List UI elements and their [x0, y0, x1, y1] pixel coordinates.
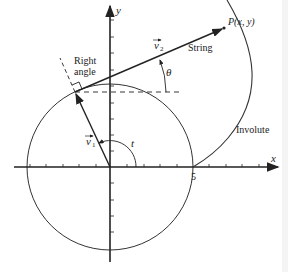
svg-text:2: 2 [160, 45, 164, 53]
x-axis-label: x [270, 152, 276, 164]
involute-diagram: y x 5 P(x, y) v 2 v 1 String θ Right ang… [0, 0, 288, 272]
string-label: String [188, 42, 212, 53]
page-edge [282, 0, 288, 272]
vector-v2-string [75, 29, 222, 92]
right-angle-marker [72, 82, 82, 89]
x-tick-5-label: 5 [191, 171, 196, 182]
theta-label: θ [166, 66, 172, 78]
v1-label: v 1 [85, 135, 96, 149]
involute-label: Involute [236, 124, 270, 135]
y-axis-label: y [115, 4, 121, 16]
t-label: t [131, 137, 135, 149]
svg-text:v: v [86, 135, 91, 147]
svg-text:1: 1 [92, 141, 96, 149]
v2-label: v 2 [153, 39, 164, 53]
point-p-dot [222, 26, 225, 29]
point-p-label: P(x, y) [227, 16, 255, 28]
y-axis [110, 6, 114, 262]
right-angle-label-line1: Right [74, 55, 96, 66]
x-axis [14, 164, 278, 167]
right-angle-label-line2: angle [74, 66, 96, 77]
svg-text:v: v [154, 39, 159, 51]
radius-extension-dashed [60, 58, 75, 92]
vector-v1 [76, 94, 110, 167]
